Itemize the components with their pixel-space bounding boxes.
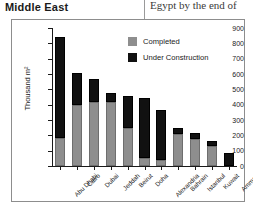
bar-segment-completed (89, 102, 99, 166)
square-swatch-icon (128, 37, 137, 46)
bar-segment-under-construction (139, 98, 149, 159)
x-tick-mark (212, 166, 213, 170)
column-divider (144, 0, 145, 19)
region-heading: Middle East (5, 1, 68, 13)
x-tick-mark (229, 166, 230, 170)
bar-segment-completed (72, 105, 82, 166)
x-tick-mark (60, 166, 61, 170)
y-tick-mark (48, 43, 52, 44)
y-tick-mark (48, 105, 52, 106)
bar-group (55, 28, 65, 166)
bar-segment-under-construction (224, 153, 234, 166)
x-tick-mark (128, 166, 129, 170)
y-tick-mark (48, 28, 52, 29)
bar-segment-completed (106, 102, 116, 166)
bar-group (106, 28, 116, 166)
legend-label: Under Construction (143, 53, 208, 62)
y-tick-mark (48, 151, 52, 152)
square-swatch-icon (128, 53, 137, 62)
adjacent-column-text: Egypt by the end of (150, 0, 237, 11)
x-tick-mark (145, 166, 146, 170)
x-tick-mark (178, 166, 179, 170)
bar-segment-under-construction (190, 133, 200, 140)
legend-item: Under Construction (128, 53, 208, 62)
page-header-strip: Middle East Egypt by the end of (0, 0, 253, 19)
y-tick-mark (48, 89, 52, 90)
bar-segment-under-construction (72, 73, 82, 105)
bar-segment-completed (207, 146, 217, 166)
bar-segment-completed (139, 158, 149, 166)
x-tick-mark (94, 166, 95, 170)
y-axis-title: Thousand m² (23, 46, 32, 132)
y-axis-line (52, 28, 53, 166)
bar-segment-completed (156, 160, 166, 166)
y-tick-mark (48, 135, 52, 136)
bar-segment-completed (55, 138, 65, 166)
bar-group (224, 28, 234, 166)
chart-figure: Thousand m² 0100200300400500600700800900… (11, 19, 245, 202)
bar-group (72, 28, 82, 166)
bar-segment-under-construction (106, 93, 116, 101)
bar-segment-under-construction (156, 110, 166, 159)
x-tick-mark (77, 166, 78, 170)
y-tick-mark (48, 120, 52, 121)
y-tick-mark (48, 74, 52, 75)
y-tick-mark (48, 166, 52, 167)
bar-segment-completed (123, 128, 133, 166)
x-tick-mark (111, 166, 112, 170)
bar-segment-under-construction (55, 37, 65, 137)
bar-segment-completed (173, 134, 183, 166)
legend-label: Completed (143, 37, 180, 46)
x-tick-mark (195, 166, 196, 170)
x-axis-label: Cairo (86, 172, 102, 188)
legend-item: Completed (128, 37, 208, 46)
bar-group (89, 28, 99, 166)
y-tick-mark (48, 59, 52, 60)
x-axis-label: Doha (153, 172, 169, 188)
bar-segment-under-construction (123, 96, 133, 129)
bar-segment-under-construction (89, 79, 99, 102)
x-tick-mark (161, 166, 162, 170)
bar-segment-completed (190, 139, 200, 166)
x-axis-label: Amman (239, 172, 253, 193)
chart-legend: CompletedUnder Construction (128, 37, 208, 69)
x-axis-label: Dubai (103, 172, 120, 189)
